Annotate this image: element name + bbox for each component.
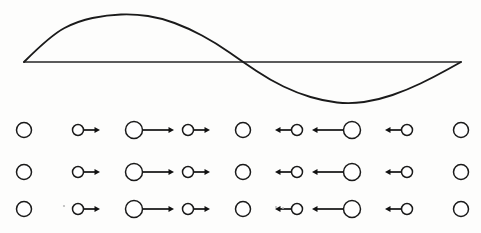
particle-circle: [17, 202, 32, 217]
particle-row: [17, 122, 469, 139]
velocity-vector-head: [95, 206, 101, 212]
particle-cell: [454, 202, 469, 217]
particle-cell: [385, 167, 413, 178]
velocity-vector-head: [169, 127, 175, 133]
particle-circle: [183, 204, 194, 215]
particle-cell: [454, 123, 469, 138]
particle-cell: [312, 122, 361, 139]
particle-circle: [402, 167, 413, 178]
velocity-vector-head: [385, 169, 391, 175]
particle-cell: [73, 167, 101, 178]
particle-cell: [312, 164, 361, 181]
velocity-vector-head: [312, 206, 318, 212]
velocity-vector-head: [275, 127, 281, 133]
particle-cell: [17, 123, 32, 138]
particle-cell: [126, 164, 175, 181]
particle-circle: [344, 122, 361, 139]
scan-speck: [282, 207, 284, 209]
particle-circle: [344, 164, 361, 181]
velocity-vector-head: [312, 127, 318, 133]
particle-circle: [344, 201, 361, 218]
particle-circle: [73, 204, 84, 215]
particle-circle: [454, 123, 469, 138]
particle-cell: [275, 167, 303, 178]
velocity-vector-head: [95, 127, 101, 133]
figure-canvas: [0, 0, 481, 233]
particle-circle: [236, 202, 251, 217]
particle-cell: [126, 201, 175, 218]
particle-cell: [183, 167, 211, 178]
particle-circle: [17, 123, 32, 138]
particle-circle: [73, 167, 84, 178]
particle-cell: [126, 122, 175, 139]
velocity-vector-head: [205, 169, 211, 175]
velocity-vector-head: [169, 169, 175, 175]
particle-circle: [292, 204, 303, 215]
particle-row: [17, 201, 469, 218]
velocity-vector-head: [95, 169, 101, 175]
particle-circle: [236, 123, 251, 138]
velocity-vector-head: [385, 206, 391, 212]
particle-circle: [402, 125, 413, 136]
particle-cell: [17, 165, 32, 180]
particle-cell: [275, 204, 303, 215]
particle-circle: [126, 201, 143, 218]
particle-row: [17, 164, 469, 181]
particle-circle: [183, 125, 194, 136]
particle-cell: [275, 125, 303, 136]
particle-cell: [183, 125, 211, 136]
velocity-vector-head: [169, 206, 175, 212]
particle-circle: [73, 125, 84, 136]
particle-circle: [236, 165, 251, 180]
particle-cell: [73, 125, 101, 136]
particle-grid: [17, 122, 469, 218]
scan-speck: [63, 205, 65, 207]
particle-circle: [17, 165, 32, 180]
particle-cell: [385, 204, 413, 215]
particle-circle: [126, 122, 143, 139]
velocity-vector-head: [312, 169, 318, 175]
particle-cell: [385, 125, 413, 136]
wave-curve: [24, 14, 461, 103]
scan-speck: [275, 206, 277, 208]
particle-cell: [312, 201, 361, 218]
particle-circle: [183, 167, 194, 178]
particle-circle: [126, 164, 143, 181]
particle-cell: [236, 123, 251, 138]
velocity-vector-head: [205, 127, 211, 133]
particle-circle: [454, 202, 469, 217]
particle-circle: [454, 165, 469, 180]
particle-circle: [292, 125, 303, 136]
velocity-vector-head: [275, 169, 281, 175]
particle-cell: [236, 202, 251, 217]
particle-cell: [236, 165, 251, 180]
particle-circle: [402, 204, 413, 215]
particle-cell: [454, 165, 469, 180]
velocity-vector-head: [385, 127, 391, 133]
particle-cell: [17, 202, 32, 217]
sine-wave: [24, 14, 461, 103]
particle-cell: [183, 204, 211, 215]
particle-cell: [73, 204, 101, 215]
particle-circle: [292, 167, 303, 178]
wave-particle-figure: [0, 0, 481, 233]
velocity-vector-head: [205, 206, 211, 212]
